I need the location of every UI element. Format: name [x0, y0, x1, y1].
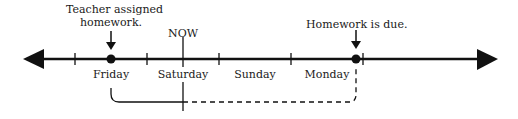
- day-label-monday: Monday: [297, 68, 357, 81]
- now-label: NOW: [158, 27, 208, 40]
- day-label-saturday: Saturday: [153, 68, 213, 81]
- day-label-friday: Friday: [81, 68, 141, 81]
- due-point: [352, 55, 361, 64]
- assigned-label-line1: Teacher assigned: [66, 3, 156, 16]
- left-arrow-icon: [23, 49, 44, 69]
- due-label: Homework is due.: [306, 18, 406, 31]
- assigned-label-line2: homework.: [66, 16, 156, 29]
- day-label-sunday: Sunday: [225, 68, 285, 81]
- friday-point: [107, 55, 116, 64]
- right-arrow-icon: [477, 49, 498, 70]
- elapsed-time-bracket: [111, 88, 183, 102]
- due-arrow-icon: [351, 30, 361, 49]
- assigned-arrow-icon: [106, 31, 116, 50]
- homework-timeline-diagram: Teacher assigned homework. NOW Homework …: [0, 0, 518, 119]
